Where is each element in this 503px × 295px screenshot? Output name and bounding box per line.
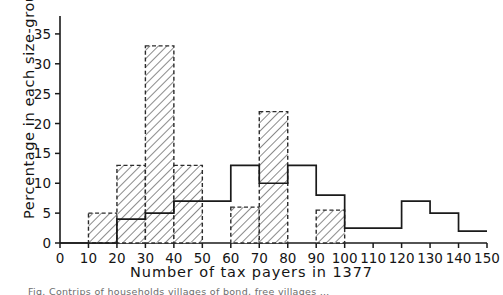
x-tick-label: 60 [222,250,239,264]
hatched-bar [231,207,259,243]
x-tick-label: 0 [56,250,65,264]
hatched-bar [259,112,287,243]
x-tick-label: 100 [332,250,358,264]
x-tick-label: 90 [308,250,325,264]
hatched-series-group [88,46,344,243]
x-tick-label: 110 [360,250,386,264]
x-tick-label: 130 [417,250,443,264]
hatched-bar [117,165,145,243]
x-tick-label: 50 [194,250,211,264]
x-tick-label: 30 [137,250,154,264]
hatched-bar [316,210,344,243]
y-axis-label: Percentage in each size-group [21,0,37,219]
x-tick-label: 40 [165,250,182,264]
histogram-plot: 0510152025303501020304050607080901001101… [0,0,503,264]
x-tick-label: 140 [446,250,472,264]
hatched-bar [174,165,202,243]
x-tick-label: 120 [389,250,415,264]
x-tick-label: 80 [279,250,296,264]
x-tick-label: 150 [474,250,500,264]
x-tick-label: 10 [80,250,97,264]
x-axis-label: Number of tax payers in 1377 [0,264,503,280]
x-tick-label: 20 [108,250,125,264]
y-tick-label: 0 [42,235,51,251]
figure-container: Percentage in each size-group Number of … [0,0,503,295]
x-tick-label: 70 [251,250,268,264]
hatched-bar [88,213,116,243]
figure-caption: Fig. Contrips of households villages of … [28,286,503,295]
y-tick-label: 5 [42,205,51,221]
